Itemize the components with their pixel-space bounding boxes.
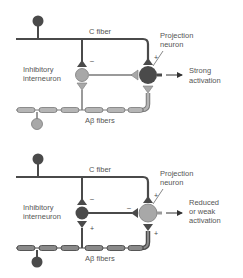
output-label-line2: activation	[189, 77, 221, 86]
c-fiber-cell-body-icon	[33, 16, 44, 40]
abeta-fibers-label: Aβ fibers	[85, 255, 115, 264]
sign-c-to-projection: +	[154, 192, 158, 199]
projection-neuron-label-line2: neuron	[160, 41, 183, 50]
c-terminal-projection-icon	[143, 196, 153, 203]
projection-neuron-label-line2: neuron	[160, 179, 183, 188]
abeta-cell-body-icon	[32, 112, 43, 130]
sign-c-to-projection: +	[154, 54, 158, 61]
abeta-cell-body-icon	[32, 250, 43, 268]
interneuron-label-line2: interneuron	[23, 75, 61, 84]
interneuron-body-icon	[76, 207, 89, 220]
c-fiber-label: C fiber	[89, 28, 111, 37]
abeta-fiber-segments	[16, 108, 144, 113]
sign-interneuron-to-projection: –	[127, 204, 131, 211]
c-terminal-projection-icon	[143, 58, 153, 65]
sign-c-to-interneuron: –	[90, 57, 94, 64]
gate-control-diagram	[0, 0, 243, 278]
projection-neuron-body-icon	[139, 66, 157, 84]
projection-neuron-body-icon	[139, 204, 157, 222]
abeta-terminal-interneuron-icon	[77, 83, 87, 90]
abeta-fibers-label: Aβ fibers	[85, 117, 115, 126]
sign-abeta-to-interneuron: +	[90, 225, 94, 232]
abeta-terminal-projection-icon	[143, 224, 153, 231]
interneuron-terminal-icon	[131, 70, 138, 80]
output-label-line3: activation	[189, 217, 221, 226]
sign-c-to-interneuron: –	[90, 195, 94, 202]
interneuron-label-line2: interneuron	[23, 213, 61, 222]
output-label-line1: Strong	[189, 67, 211, 76]
abeta-terminal-projection-icon	[143, 86, 153, 93]
c-terminal-interneuron-icon	[77, 198, 87, 205]
c-fiber-label: C fiber	[89, 166, 111, 175]
c-terminal-interneuron-icon	[77, 60, 87, 67]
abeta-terminal-interneuron-icon	[77, 221, 87, 228]
c-fiber-cell-body-icon	[33, 154, 44, 178]
sign-abeta-to-projection: +	[154, 230, 158, 237]
abeta-fiber-segments	[16, 246, 144, 251]
interneuron-body-icon	[76, 69, 89, 82]
interneuron-terminal-icon	[131, 208, 138, 218]
